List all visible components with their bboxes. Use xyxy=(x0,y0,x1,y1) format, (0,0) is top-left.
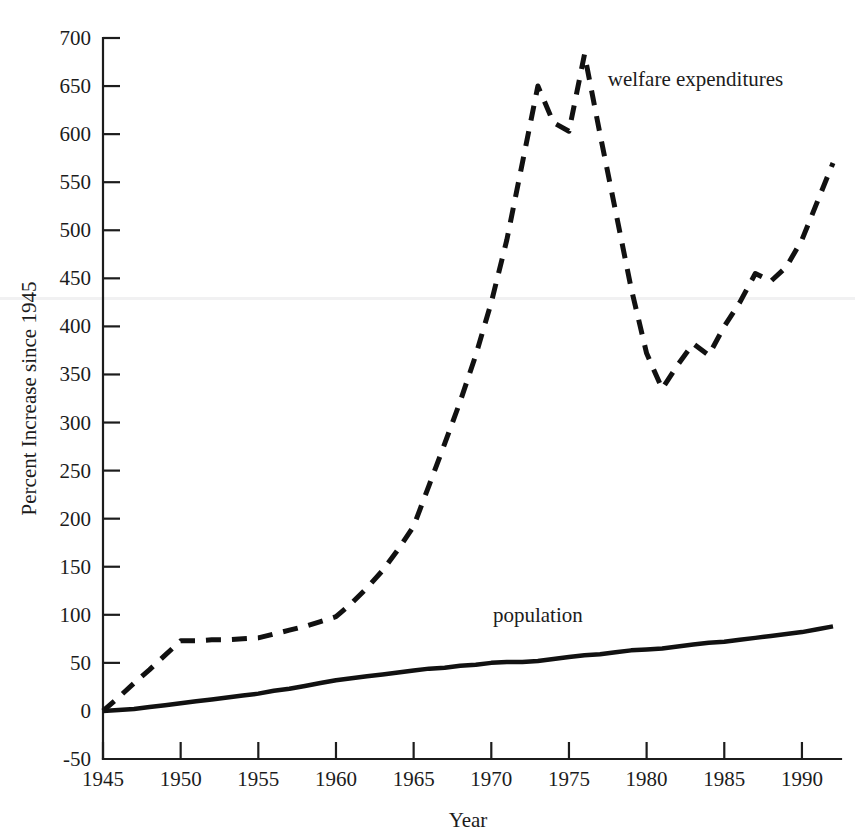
y-tick-label: 500 xyxy=(60,218,92,242)
x-tick-label: 1960 xyxy=(315,767,357,791)
x-axis-title: Year xyxy=(449,808,488,832)
series-label-population: population xyxy=(493,603,583,627)
y-tick-label: 650 xyxy=(60,74,92,98)
chart-figure: -500501001502002503003504004505005506006… xyxy=(0,0,855,836)
x-tick-label: 1975 xyxy=(548,767,590,791)
y-tick-label: 350 xyxy=(60,362,92,386)
axes-group xyxy=(103,38,841,759)
line-chart-plot: -500501001502002503003504004505005506006… xyxy=(0,0,855,836)
y-tick-label: 700 xyxy=(60,26,92,50)
y-tick-label: 450 xyxy=(60,266,92,290)
x-tick-label: 1945 xyxy=(82,767,124,791)
y-tick-label: 200 xyxy=(60,507,92,531)
x-tick-label: 1980 xyxy=(626,767,668,791)
y-tick-label: 600 xyxy=(60,122,92,146)
y-tick-label: 300 xyxy=(60,411,92,435)
y-axis-title: Percent Increase since 1945 xyxy=(17,282,41,516)
x-tick-label: 1970 xyxy=(470,767,512,791)
y-axis-ticks xyxy=(103,38,120,711)
y-tick-label: 250 xyxy=(60,459,92,483)
x-axis-ticks xyxy=(103,742,802,759)
x-tick-label: 1955 xyxy=(237,767,279,791)
x-tick-label: 1950 xyxy=(160,767,202,791)
y-tick-label: 50 xyxy=(70,651,91,675)
y-tick-label: 100 xyxy=(60,603,92,627)
y-tick-label: 400 xyxy=(60,314,92,338)
series-label-welfare-expenditures: welfare expenditures xyxy=(608,67,784,91)
x-tick-label: 1965 xyxy=(393,767,435,791)
y-axis-tick-labels: -500501001502002503003504004505005506006… xyxy=(60,26,92,771)
y-tick-label: 0 xyxy=(81,699,92,723)
x-tick-label: 1985 xyxy=(703,767,745,791)
y-tick-label: 150 xyxy=(60,555,92,579)
x-tick-label: 1990 xyxy=(781,767,823,791)
x-axis-tick-labels: 1945195019551960196519701975198019851990 xyxy=(82,767,823,791)
series-line-welfare-expenditures xyxy=(103,54,833,711)
y-tick-label: 550 xyxy=(60,170,92,194)
